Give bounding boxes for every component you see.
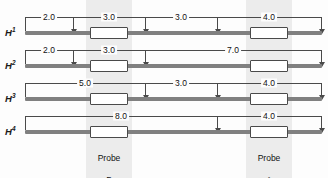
dist-h3-1: 5.0 (77, 79, 93, 88)
probe-a-caption-line2: A (266, 175, 272, 178)
dist-h4-1: 8.0 (113, 112, 129, 121)
rule-h2 (25, 50, 322, 51)
dist-h1-4: 4.0 (261, 13, 277, 22)
arrow-h2-2 (145, 50, 146, 63)
fragment-box-h1-b (90, 27, 128, 39)
row-label-h4-text: H (5, 126, 12, 137)
arrow-h4-2 (321, 116, 322, 129)
arrow-h4-1 (217, 116, 218, 129)
probe-a-caption-line1: Probe (258, 153, 281, 163)
row-label-h2: H2 (5, 59, 16, 71)
probe-a-caption: Probe A (239, 142, 299, 178)
row-label-h1-sup: 1 (12, 26, 16, 33)
row-label-h1-text: H (5, 27, 12, 38)
arrow-h2-1 (73, 50, 74, 63)
fragment-box-h4-a (250, 126, 288, 138)
rule-h4 (25, 116, 322, 117)
dist-h2-2: 3.0 (101, 46, 117, 55)
dist-h1-3: 3.0 (173, 13, 189, 22)
restriction-map-figure: H1 2.0 3.0 3.0 4.0 H2 2.0 3.0 7.0 H3 5.0… (0, 0, 328, 178)
row-label-h1: H1 (5, 26, 16, 38)
fragment-box-h2-a (250, 60, 288, 72)
fragment-box-h3-b (90, 93, 128, 105)
arrow-h1-4 (321, 17, 322, 30)
row-label-h2-sup: 2 (12, 59, 16, 66)
row-label-h3-sup: 3 (12, 92, 16, 99)
arrow-h3-1 (145, 83, 146, 96)
arrow-h1-2 (145, 17, 146, 30)
fragment-box-h4-b (90, 126, 128, 138)
row-label-h3-text: H (5, 93, 12, 104)
dist-h3-2: 3.0 (173, 79, 189, 88)
tick-h2-start (25, 50, 26, 64)
dist-h3-3: 4.0 (261, 79, 277, 88)
arrow-h1-3 (217, 17, 218, 30)
tick-h4-start (25, 116, 26, 130)
dist-h4-2: 4.0 (261, 112, 277, 121)
row-label-h4: H4 (5, 125, 16, 137)
fragment-box-h1-a (250, 27, 288, 39)
dist-h2-3: 7.0 (225, 46, 241, 55)
probe-b-caption-line1: Probe (98, 153, 121, 163)
dist-h1-1: 2.0 (41, 13, 57, 22)
row-label-h2-text: H (5, 60, 12, 71)
probe-b-caption-line2: B (106, 175, 112, 178)
tick-h1-start (25, 17, 26, 31)
dist-h1-2: 3.0 (101, 13, 117, 22)
arrow-h3-3 (321, 83, 322, 96)
row-label-h3: H3 (5, 92, 16, 104)
probe-b-caption: Probe B (79, 142, 139, 178)
arrow-h3-2 (217, 83, 218, 96)
fragment-box-h3-a (250, 93, 288, 105)
dist-h2-1: 2.0 (41, 46, 57, 55)
tick-h3-start (25, 83, 26, 97)
fragment-box-h2-b (90, 60, 128, 72)
row-label-h4-sup: 4 (12, 125, 16, 132)
arrow-h2-3 (321, 50, 322, 63)
arrow-h1-1 (73, 17, 74, 30)
